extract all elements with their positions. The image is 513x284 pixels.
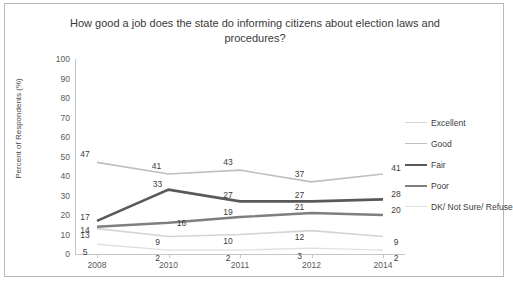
x-tick-label: 2008 (88, 260, 107, 270)
chart-frame: How good a job does the state do informi… (4, 3, 504, 277)
x-tick-label: 2011 (231, 260, 249, 270)
data-label: 27 (223, 190, 232, 200)
data-label: 37 (295, 169, 304, 179)
x-tick-mark (169, 254, 170, 258)
y-tick-label: 20 (61, 210, 70, 220)
y-tick-label: 60 (61, 132, 70, 142)
x-tick-mark (240, 254, 241, 258)
legend-swatch-line (405, 122, 427, 123)
data-label: 33 (153, 179, 162, 189)
data-label: 5 (83, 247, 88, 257)
chart-legend: ExcellentGoodFairPoorDK/ Not Sure/ Refus… (405, 112, 510, 217)
legend-label: Fair (431, 160, 446, 170)
data-label: 2 (155, 253, 160, 263)
legend-item[interactable]: Fair (405, 154, 510, 175)
series-line-poor (97, 213, 383, 227)
x-tick-label: 2010 (159, 260, 178, 270)
data-label: 47 (80, 149, 89, 159)
data-label: 20 (391, 205, 400, 215)
x-tick-mark (97, 254, 98, 258)
y-tick-label: 100 (56, 54, 70, 64)
x-tick-label: 2012 (302, 260, 321, 270)
data-label: 19 (223, 207, 232, 217)
data-label: 41 (391, 163, 400, 173)
legend-item[interactable]: Excellent (405, 112, 510, 133)
chart-title: How good a job does the state do informi… (65, 16, 445, 46)
x-tick-mark (312, 254, 313, 258)
data-label: 17 (80, 212, 89, 222)
legend-swatch-line (405, 143, 427, 144)
data-label: 14 (80, 225, 89, 235)
data-label: 2 (394, 253, 399, 263)
y-tick-label: 50 (61, 152, 70, 162)
y-tick-label: 80 (61, 93, 70, 103)
legend-item[interactable]: Poor (405, 175, 510, 196)
data-label: 21 (295, 202, 304, 212)
y-tick-label: 10 (61, 230, 70, 240)
legend-label: Excellent (431, 118, 466, 128)
x-tick-mark (383, 254, 384, 258)
data-label: 2 (226, 253, 231, 263)
legend-item[interactable]: DK/ Not Sure/ Refuse (405, 196, 510, 217)
data-label: 43 (223, 157, 232, 167)
data-label: 16 (177, 218, 186, 228)
legend-label: Poor (431, 181, 449, 191)
data-label: 9 (155, 237, 160, 247)
y-axis-label: Percent of Respondents (%) (14, 44, 23, 214)
data-label: 3 (297, 251, 302, 261)
y-tick-label: 0 (65, 249, 70, 259)
y-tick-label: 90 (61, 74, 70, 84)
data-label: 12 (295, 232, 304, 242)
data-label: 10 (223, 236, 232, 246)
legend-swatch-line (405, 164, 427, 166)
x-tick-label: 2014 (374, 260, 393, 270)
series-line-dk-not-sure-refuse (97, 244, 383, 250)
legend-item[interactable]: Good (405, 133, 510, 154)
y-tick-label: 40 (61, 171, 70, 181)
legend-swatch-line (405, 206, 427, 207)
data-label: 27 (295, 190, 304, 200)
legend-label: Good (431, 139, 452, 149)
data-label: 41 (152, 161, 161, 171)
series-line-excellent (97, 229, 383, 237)
legend-swatch-line (405, 185, 427, 187)
plot-area: 1009080706050403020100 20082010201120122… (75, 59, 405, 254)
series-lines (75, 59, 405, 254)
data-label: 9 (394, 237, 399, 247)
legend-label: DK/ Not Sure/ Refuse (431, 202, 513, 212)
y-tick-label: 70 (61, 113, 70, 123)
y-tick-label: 30 (61, 191, 70, 201)
series-line-good (97, 162, 383, 182)
data-label: 28 (391, 189, 400, 199)
